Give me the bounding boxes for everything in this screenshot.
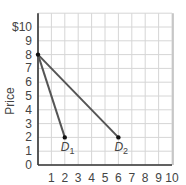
x-tick: 7 [128, 171, 135, 185]
x-tick: 4 [88, 171, 95, 185]
y-tick: 3 [25, 117, 32, 131]
x-tick: 10 [165, 171, 179, 185]
y-tick: 0 [25, 158, 32, 172]
x-tick: 3 [75, 171, 82, 185]
x-tick: 2 [61, 171, 68, 185]
x-tick: 5 [102, 171, 109, 185]
point-marker [36, 52, 40, 56]
y-tick: $10 [12, 20, 32, 34]
y-tick: 7 [25, 61, 32, 75]
curve-label-d1: D1 [61, 140, 75, 156]
y-tick: 4 [25, 103, 32, 117]
x-tick: 8 [142, 171, 149, 185]
x-tick: 9 [155, 171, 162, 185]
y-tick: 5 [25, 89, 32, 103]
x-tick: 1 [48, 171, 55, 185]
y-tick: 6 [25, 75, 32, 89]
point-marker [116, 135, 120, 139]
point-marker [63, 135, 67, 139]
curve-label-d2: D2 [114, 140, 128, 156]
grid [38, 13, 173, 165]
x-tick: 6 [115, 171, 122, 185]
demand-chart: 0123456789$10 12345678910 D1D2 Price [0, 0, 186, 185]
y-tick: 2 [25, 130, 32, 144]
y-tick: 1 [25, 144, 32, 158]
x-tick-labels: 12345678910 [48, 171, 179, 185]
y-tick: 9 [25, 34, 32, 48]
y-tick: 8 [25, 48, 32, 62]
y-axis-label: Price [3, 87, 17, 115]
